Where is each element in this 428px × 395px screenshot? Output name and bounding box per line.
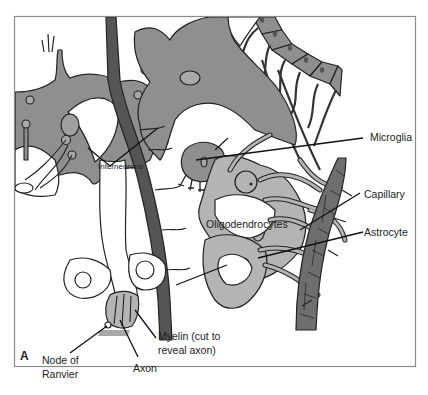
label-myelin-line2: reveal axon) [158, 344, 216, 357]
label-myelin-line1: Myelin (cut to [158, 330, 220, 343]
label-interneurons: Interneurons [98, 160, 143, 173]
label-node-line2: Ranvier [42, 368, 78, 381]
label-node-line1: Node of [42, 354, 79, 367]
label-axon: Axon [133, 362, 157, 375]
label-oligodendrocytes: Oligodendrocytes [206, 218, 288, 231]
label-capillary: Capillary [364, 188, 405, 201]
label-astrocyte: Astrocyte [364, 226, 408, 239]
panel-letter: A [20, 349, 29, 363]
label-microglia: Microglia [370, 131, 412, 144]
